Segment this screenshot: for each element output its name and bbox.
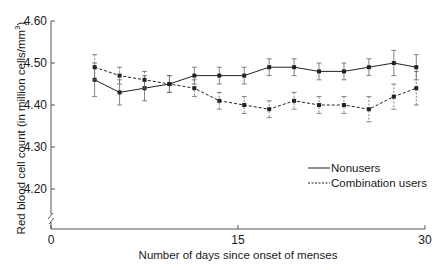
chart: 4.204.304.404.504.6001530 NonusersCombin… bbox=[0, 0, 441, 270]
data-point-marker bbox=[317, 69, 321, 73]
y-tick-label: 4.40 bbox=[24, 98, 48, 112]
data-point-marker bbox=[392, 95, 396, 99]
data-point-marker bbox=[342, 103, 346, 107]
legend: NonusersCombination users bbox=[308, 162, 427, 189]
ticks: 4.204.304.404.504.6001530 bbox=[24, 14, 432, 247]
y-axis-title: Red blood cell count (in million cells/m… bbox=[13, 21, 27, 234]
y-axis-title-main: Red blood cell count (in million cells/m… bbox=[15, 30, 27, 235]
y-axis-title-end: ) bbox=[15, 21, 27, 25]
series bbox=[92, 50, 419, 121]
data-point-marker bbox=[143, 78, 147, 82]
legend-label: Combination users bbox=[331, 177, 427, 189]
data-point-marker bbox=[414, 65, 418, 69]
data-point-marker bbox=[217, 99, 221, 103]
data-point-marker bbox=[192, 74, 196, 78]
data-point-marker bbox=[367, 107, 371, 111]
data-point-marker bbox=[292, 99, 296, 103]
data-point-marker bbox=[342, 69, 346, 73]
data-point-marker bbox=[414, 86, 418, 90]
data-point-marker bbox=[367, 65, 371, 69]
y-tick-label: 4.50 bbox=[24, 56, 48, 70]
data-point-marker bbox=[292, 65, 296, 69]
data-point-marker bbox=[242, 74, 246, 78]
series-combination-users bbox=[92, 55, 419, 122]
data-point-marker bbox=[192, 86, 196, 90]
y-tick-label: 4.30 bbox=[24, 140, 48, 154]
data-point-marker bbox=[167, 82, 171, 86]
y-tick-label: 4.20 bbox=[24, 182, 48, 196]
data-point-marker bbox=[118, 74, 122, 78]
data-point-marker bbox=[93, 65, 97, 69]
data-point-marker bbox=[217, 74, 221, 78]
data-point-marker bbox=[242, 103, 246, 107]
data-point-marker bbox=[392, 61, 396, 65]
x-tick-label: 0 bbox=[48, 233, 55, 247]
x-tick-label: 30 bbox=[418, 233, 432, 247]
legend-label: Nonusers bbox=[331, 162, 380, 174]
y-tick-label: 4.60 bbox=[24, 14, 48, 28]
x-axis-title: Number of days since onset of menses bbox=[139, 249, 338, 261]
x-tick-label: 15 bbox=[231, 233, 245, 247]
data-point-marker bbox=[317, 103, 321, 107]
data-point-marker bbox=[267, 65, 271, 69]
axes bbox=[48, 21, 425, 229]
data-point-marker bbox=[267, 107, 271, 111]
data-point-marker bbox=[118, 90, 122, 94]
